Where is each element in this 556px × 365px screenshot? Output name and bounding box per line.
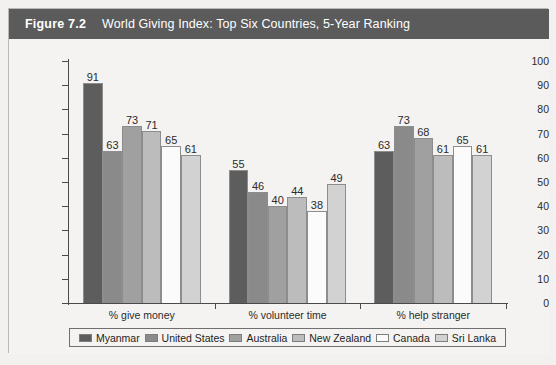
bar-value-label: 55 [232,158,244,170]
y-axis-tick-label: 50 [507,176,549,188]
bar-value-label: 65 [165,134,177,146]
legend-label: Sri Lanka [452,332,496,344]
legend-label: Australia [246,332,287,344]
bar[interactable]: 61 [472,155,492,303]
y-axis-tick [62,182,68,183]
bar[interactable]: 38 [307,211,327,303]
bar-group: 916373716561 [83,61,201,303]
bar[interactable]: 63 [103,151,123,303]
y-axis-tick [62,109,68,110]
legend-label: New Zealand [309,332,371,344]
bar[interactable]: 73 [394,126,414,303]
bar-value-label: 49 [330,172,342,184]
bar-group: 554640443849 [229,61,347,303]
bars-container: 916373716561554640443849637368616561 [69,61,506,303]
bar-value-label: 40 [272,194,284,206]
bar[interactable]: 61 [181,155,201,303]
legend-item[interactable]: United States [145,332,225,344]
bar-value-label: 61 [437,143,449,155]
bar-value-label: 61 [476,143,488,155]
bar-value-label: 63 [378,139,390,151]
x-axis-category-label: % help stranger [360,309,506,321]
bar[interactable]: 40 [268,206,288,303]
y-axis-tick [62,85,68,86]
legend-swatch-icon [435,334,448,342]
x-axis-category-label: % volunteer time [215,309,361,321]
bar[interactable]: 91 [83,83,103,303]
legend-item[interactable]: New Zealand [292,332,371,344]
legend-label: Canada [393,332,430,344]
bar[interactable]: 63 [374,151,394,303]
bar-value-label: 73 [398,114,410,126]
x-axis-group-separator [506,303,507,309]
figure-number: Figure 7.2 [25,17,86,31]
bar[interactable]: 65 [161,146,181,303]
bar-value-label: 61 [185,143,197,155]
bar-value-label: 65 [456,134,468,146]
bar-value-label: 71 [146,119,158,131]
bar[interactable]: 61 [433,155,453,303]
legend-item[interactable]: Sri Lanka [435,332,496,344]
y-axis-tick [62,61,68,62]
bar-value-label: 44 [291,185,303,197]
legend-label: Myanmar [96,332,140,344]
y-axis-tick [62,303,68,304]
bar[interactable]: 73 [122,126,142,303]
y-axis-tick [62,206,68,207]
bar[interactable]: 65 [453,146,473,303]
bar[interactable]: 46 [248,192,268,303]
y-axis-tick-label: 20 [507,249,549,261]
bar-group: 637368616561 [374,61,492,303]
y-axis-tick-label: 100 [507,55,549,67]
legend-swatch-icon [229,334,242,342]
bar[interactable]: 55 [229,170,249,303]
y-axis-tick-label: 40 [507,200,549,212]
y-axis-tick-label: 0 [507,297,549,309]
bar[interactable]: 49 [327,184,347,303]
legend-item[interactable]: Myanmar [79,332,140,344]
bar[interactable]: 68 [414,138,434,303]
bar-value-label: 38 [311,199,323,211]
y-axis-tick-label: 80 [507,103,549,115]
figure-title: World Giving Index: Top Six Countries, 5… [102,17,410,31]
bar-value-label: 91 [87,71,99,83]
y-axis-tick [62,230,68,231]
bar-value-label: 68 [417,126,429,138]
legend-swatch-icon [376,334,389,342]
bar-value-label: 46 [252,180,264,192]
y-axis-tick-label: 30 [507,224,549,236]
legend-item[interactable]: Australia [229,332,287,344]
bar[interactable]: 44 [287,197,307,303]
legend-swatch-icon [292,334,305,342]
legend-item[interactable]: Canada [376,332,430,344]
chart-plot-region: 1009080706050403020100 91637371656155464… [9,39,549,354]
y-axis-tick [62,255,68,256]
legend-label: United States [162,332,225,344]
y-axis-tick-label: 10 [507,273,549,285]
y-axis-tick-label: 70 [507,128,549,140]
x-axis-category-label: % give money [69,309,215,321]
chart-legend: MyanmarUnited StatesAustraliaNew Zealand… [69,328,506,347]
y-axis-tick-label: 60 [507,152,549,164]
legend-swatch-icon [79,334,92,342]
y-axis-tick-label: 90 [507,79,549,91]
figure-frame: Figure 7.2 World Giving Index: Top Six C… [8,8,548,353]
bar[interactable]: 71 [142,131,162,303]
y-axis-tick [62,279,68,280]
x-axis-line [68,303,508,304]
figure-header: Figure 7.2 World Giving Index: Top Six C… [9,9,549,39]
bar-value-label: 73 [126,114,138,126]
y-axis-tick [62,158,68,159]
bar-value-label: 63 [106,139,118,151]
legend-swatch-icon [145,334,158,342]
y-axis-tick [62,134,68,135]
